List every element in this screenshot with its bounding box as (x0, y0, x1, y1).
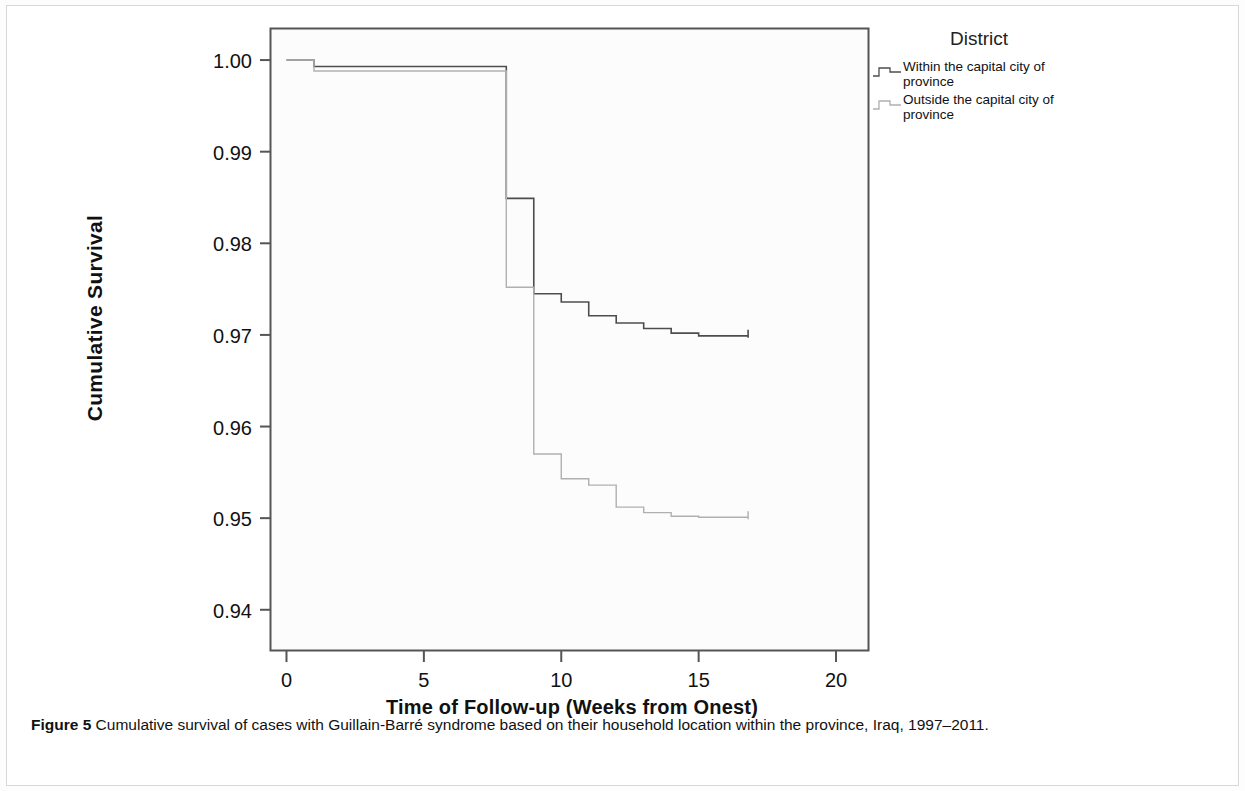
legend-item-outside: Outside the capital city of province (869, 93, 1129, 122)
x-tick-label: 0 (281, 669, 292, 691)
legend: District Within the capital city of prov… (869, 28, 1129, 126)
legend-label-outside: Outside the capital city of province (903, 93, 1088, 122)
legend-item-within: Within the capital city of province (869, 60, 1129, 89)
y-tick-label: 0.97 (213, 325, 252, 347)
legend-title: District (879, 28, 1079, 50)
y-axis-title: Cumulative Survival (83, 168, 107, 468)
chart-area: 1.000.990.980.970.960.950.94 05101520 Cu… (7, 6, 1240, 691)
figure-page: 1.000.990.980.970.960.950.94 05101520 Cu… (0, 0, 1245, 791)
y-tick-label: 0.94 (213, 600, 252, 622)
figure-caption: Figure 5 Cumulative survival of cases wi… (31, 712, 1221, 737)
x-tick-label: 20 (825, 669, 847, 691)
y-tick-label: 0.95 (213, 508, 252, 530)
legend-step-swatch-outside (873, 96, 901, 114)
y-axis-ticks: 1.000.990.980.970.960.950.94 (213, 50, 270, 622)
caption-body: Cumulative survival of cases with Guilla… (96, 716, 989, 733)
y-tick-label: 0.96 (213, 417, 252, 439)
x-tick-label: 10 (550, 669, 572, 691)
y-tick-label: 0.99 (213, 142, 252, 164)
legend-label-within: Within the capital city of province (903, 60, 1088, 89)
caption-figure-number: Figure 5 (31, 716, 91, 733)
legend-step-swatch-within (873, 63, 901, 81)
figure-frame: 1.000.990.980.970.960.950.94 05101520 Cu… (6, 5, 1239, 786)
y-tick-label: 1.00 (213, 50, 252, 72)
x-axis-ticks: 05101520 (281, 651, 847, 691)
plot-frame-box (271, 29, 869, 651)
y-tick-label: 0.98 (213, 233, 252, 255)
x-tick-label: 15 (688, 669, 710, 691)
x-tick-label: 5 (418, 669, 429, 691)
